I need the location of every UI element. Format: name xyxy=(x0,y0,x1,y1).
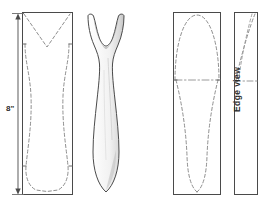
view-3-handle-left-hidden-line xyxy=(176,80,197,192)
view-3-board-rectangle xyxy=(174,13,221,195)
view-1-left-profile-hidden-line xyxy=(25,44,47,192)
dimension-arrow-bottom xyxy=(15,189,20,195)
drawing-sheet: 8" Edge view xyxy=(0,0,270,208)
view-3-bowl-side-layout xyxy=(174,13,221,195)
height-dimension-label: 8" xyxy=(6,104,14,113)
dimension-arrow-top xyxy=(15,14,20,20)
view-1-front-blank-layout xyxy=(23,13,73,195)
view-2-fork-outline xyxy=(88,14,124,192)
view-1-right-profile-hidden-line xyxy=(47,44,69,192)
view-3-handle-right-hidden-line xyxy=(197,80,218,192)
view-2-carved-fork-profile xyxy=(88,14,124,192)
technical-drawing-canvas xyxy=(0,0,270,208)
edge-view-label: Edge view xyxy=(232,67,242,112)
view-1-tine-notch-hidden-line xyxy=(24,14,70,47)
view-1-board-rectangle xyxy=(23,13,73,195)
view-3-bowl-hidden-line xyxy=(175,15,219,80)
